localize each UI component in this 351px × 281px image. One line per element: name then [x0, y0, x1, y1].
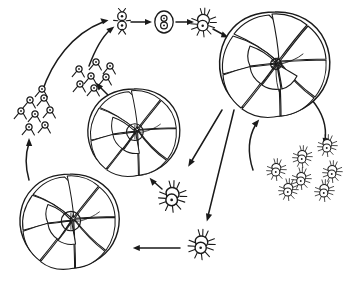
- stage-test-gamont-lower: megalospheric gamont test (lower left) —…: [20, 174, 119, 269]
- diagram-canvas: left gamete swarm — cluster of small bif…: [0, 0, 351, 281]
- foraminifera-life-cycle-diagram: left gamete swarm — cluster of small bif…: [0, 0, 351, 281]
- stage-test-agamont: microspheric agamont test — large spiral…: [220, 12, 330, 117]
- stage-test-gamont-mid: megalospheric gamont test (middle) — spi…: [88, 89, 180, 176]
- lower-gamont-chambers: [23, 176, 116, 269]
- mid-gamont-chambers: [90, 91, 176, 177]
